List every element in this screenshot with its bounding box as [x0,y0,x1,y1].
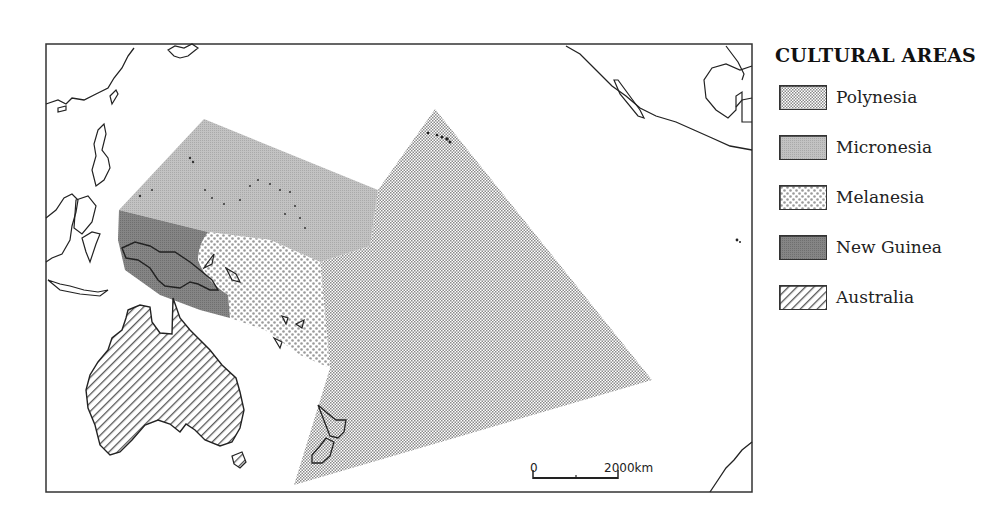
legend-item-micronesia: Micronesia [775,134,1005,160]
new-guinea-swatch-icon [779,235,827,260]
legend-label: New Guinea [836,237,942,257]
scale-end-label: 2000km [604,461,653,475]
legend-label: Australia [836,287,914,307]
micronesia-swatch-icon [779,135,827,160]
legend-label: Polynesia [836,87,917,107]
melanesia-swatch-icon [779,185,827,210]
legend: CULTURAL AREAS Polynesia Micronesia Mela… [775,44,1005,334]
legend-item-new-guinea: New Guinea [775,234,1005,260]
legend-item-polynesia: Polynesia [775,84,1005,110]
legend-title: CULTURAL AREAS [775,44,1005,66]
polynesia-swatch-icon [779,85,827,110]
scale-start-label: 0 [530,461,538,475]
legend-item-australia: Australia [775,284,1005,310]
cultural-areas-map: 0 2000km CULTURAL AREAS Polynesia Micron… [0,0,1005,518]
legend-label: Micronesia [836,137,932,157]
legend-label: Melanesia [836,187,924,207]
legend-item-melanesia: Melanesia [775,184,1005,210]
australia-swatch-icon [779,285,827,310]
